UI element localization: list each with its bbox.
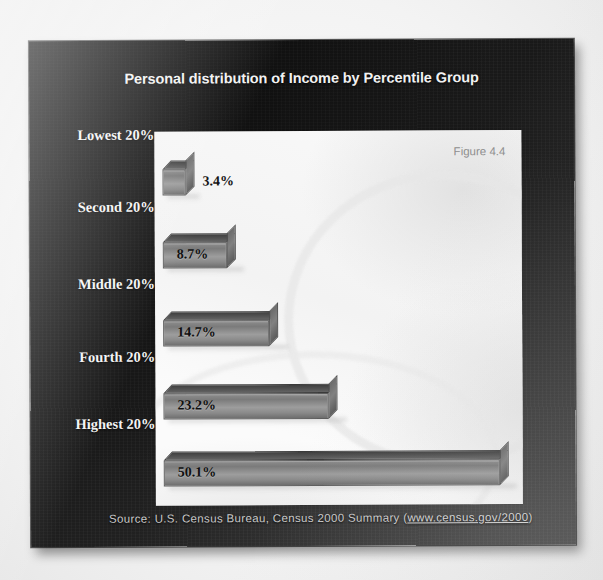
bar-end-cap: [269, 302, 278, 346]
category-label-column: Lowest 20% Second 20% Middle 20% Fourth …: [39, 127, 156, 502]
bar-top-face: [164, 450, 508, 461]
source-suffix: ): [528, 511, 532, 523]
bar-top-face: [163, 311, 277, 320]
page-title: Personal distribution of Income by Perce…: [29, 69, 574, 87]
slide-panel: Personal distribution of Income by Perce…: [29, 39, 576, 547]
bar-value-middle: 14.7%: [177, 324, 216, 340]
source-note: Source: U.S. Census Bureau, Census 2000 …: [109, 511, 533, 525]
bar-value-fourth: 23.2%: [177, 397, 216, 413]
plot-watermark-arc-right: [283, 170, 522, 469]
category-label-highest: Highest 20%: [41, 416, 156, 434]
source-url-link[interactable]: www.census.gov/2000: [407, 511, 528, 524]
figure-number-label: Figure 4.4: [454, 145, 506, 157]
bar-value-second: 8.7%: [177, 246, 209, 262]
category-label-middle: Middle 20%: [40, 276, 155, 294]
chart-plot-area: Figure 4.4 3.4% 8.7%: [154, 130, 523, 506]
category-label-second: Second 20%: [40, 199, 155, 217]
source-prefix: Source: U.S. Census Bureau, Census 2000 …: [109, 512, 407, 525]
bar-end-cap: [227, 224, 236, 268]
bar-top-face: [163, 384, 336, 394]
bar-end-cap: [500, 441, 509, 485]
bar-top-face: [163, 233, 235, 242]
bar-front-face: [162, 170, 185, 196]
bar-value-lowest: 3.4%: [202, 173, 234, 189]
bar-end-cap: [185, 151, 194, 195]
bar-end-cap: [328, 375, 337, 419]
category-label-fourth: Fourth 20%: [40, 349, 155, 367]
category-label-lowest: Lowest 20%: [39, 127, 154, 145]
bar-value-highest: 50.1%: [178, 464, 217, 480]
scanned-page-background: Personal distribution of Income by Perce…: [0, 0, 603, 580]
